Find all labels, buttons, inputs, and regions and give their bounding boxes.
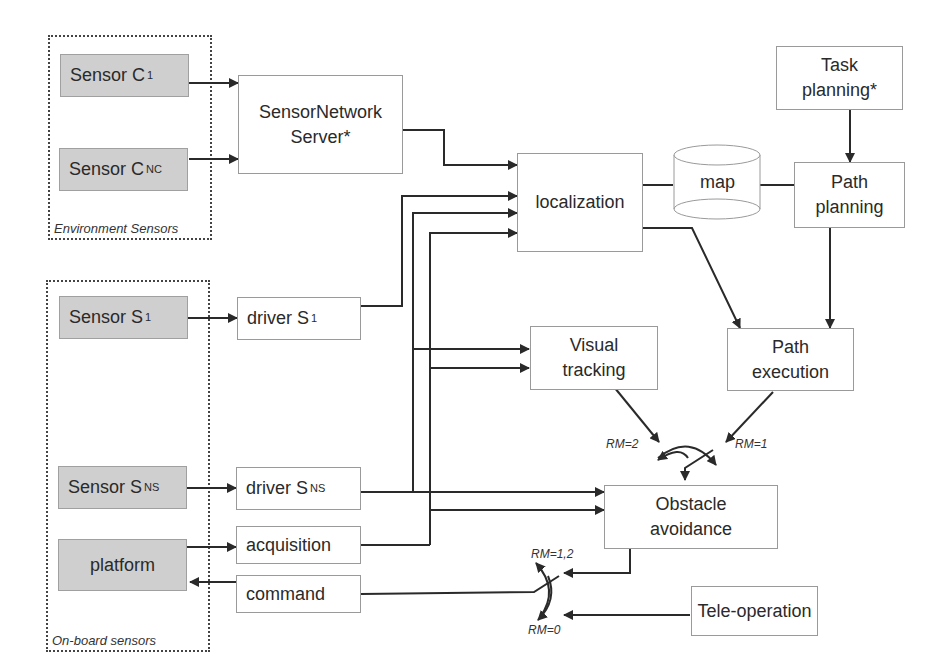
sensor-sns-label: Sensor S: [68, 475, 142, 500]
map-label: map: [700, 172, 735, 193]
obstacle-avoidance-line2: avoidance: [650, 517, 732, 542]
platform-node[interactable]: platform: [58, 539, 187, 591]
driver-s1-node[interactable]: driver S1: [237, 297, 361, 340]
sensor-cnc-label: Sensor C: [69, 157, 144, 182]
sensor-cnc-node[interactable]: Sensor CNC: [59, 148, 188, 191]
sensor-network-server-node[interactable]: SensorNetwork Server*: [238, 75, 403, 174]
rm2-label: RM=2: [606, 437, 638, 451]
localization-label: localization: [535, 190, 624, 215]
sensor-cnc-subscript: NC: [146, 157, 162, 182]
tele-operation-node[interactable]: Tele-operation: [691, 586, 818, 636]
path-execution-node[interactable]: Path execution: [727, 328, 854, 391]
localization-node[interactable]: localization: [517, 153, 643, 252]
sensor-sns-subscript: NS: [144, 475, 159, 500]
platform-label: platform: [90, 553, 155, 578]
task-planning-node[interactable]: Task planning*: [776, 46, 903, 110]
sensor-c1-subscript: 1: [147, 63, 153, 88]
driver-s1-subscript: 1: [311, 306, 317, 331]
driver-sns-node[interactable]: driver SNS: [236, 467, 361, 510]
path-execution-line1: Path: [772, 335, 809, 360]
rm0-label: RM=0: [528, 623, 560, 637]
acquisition-label: acquisition: [246, 533, 331, 558]
sensor-network-server-line2: Server*: [290, 125, 350, 150]
rm12-label: RM=1,2: [531, 547, 573, 561]
driver-s1-label: driver S: [247, 306, 309, 331]
obstacle-avoidance-node[interactable]: Obstacle avoidance: [604, 485, 778, 549]
visual-tracking-line2: tracking: [562, 358, 625, 383]
sensor-network-server-line1: SensorNetwork: [259, 100, 382, 125]
driver-sns-label: driver S: [246, 476, 308, 501]
tele-operation-label: Tele-operation: [697, 599, 811, 624]
rm1-label: RM=1: [735, 437, 767, 451]
command-node[interactable]: command: [236, 575, 361, 613]
task-planning-line2: planning*: [802, 78, 877, 103]
sensor-s1-label: Sensor S: [69, 305, 143, 330]
path-planning-node[interactable]: Path planning: [794, 162, 905, 228]
path-execution-line2: execution: [752, 360, 829, 385]
driver-sns-subscript: NS: [310, 476, 325, 501]
sensor-s1-subscript: 1: [145, 305, 151, 330]
visual-tracking-node[interactable]: Visual tracking: [530, 326, 658, 390]
sensor-sns-node[interactable]: Sensor SNS: [58, 466, 187, 509]
path-planning-line1: Path: [831, 170, 868, 195]
obstacle-avoidance-line1: Obstacle: [655, 492, 726, 517]
sensor-s1-node[interactable]: Sensor S1: [59, 296, 188, 339]
command-label: command: [246, 582, 325, 607]
sensor-c1-node[interactable]: Sensor C1: [60, 54, 189, 97]
acquisition-node[interactable]: acquisition: [236, 526, 361, 564]
path-planning-line2: planning: [815, 195, 883, 220]
task-planning-line1: Task: [821, 53, 858, 78]
visual-tracking-line1: Visual: [570, 333, 619, 358]
sensor-c1-label: Sensor C: [70, 63, 145, 88]
